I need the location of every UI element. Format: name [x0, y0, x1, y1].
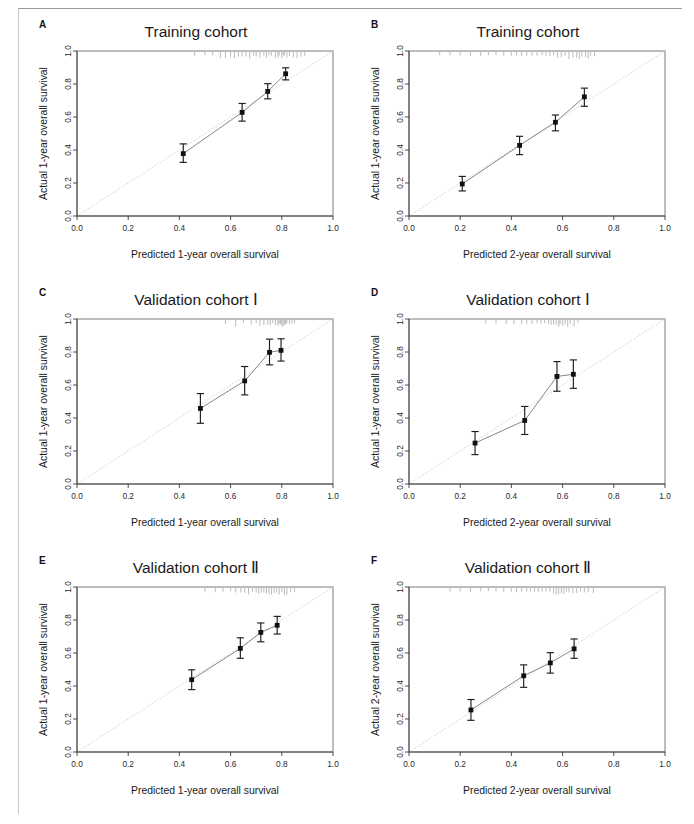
x-tick-label: 1.0	[659, 223, 671, 233]
calibration-panel-d: DValidation cohort Ⅰ0.00.00.20.20.40.40.…	[351, 281, 683, 549]
data-point-group	[241, 367, 248, 395]
data-point-marker	[582, 94, 587, 99]
data-point-group	[239, 103, 246, 121]
x-tick-label: 0.6	[225, 491, 237, 501]
data-point-group	[264, 84, 271, 99]
data-point-marker	[238, 646, 243, 651]
data-point-marker	[265, 89, 270, 94]
calibration-panel-c: CValidation cohort Ⅰ0.00.00.20.20.40.40.…	[19, 281, 351, 549]
data-point-marker	[548, 661, 553, 666]
x-tick-label: 0.2	[122, 491, 134, 501]
x-tick-label: 0.8	[276, 223, 288, 233]
y-tick-label: 0.8	[63, 614, 73, 626]
x-tick-label: 0.2	[454, 491, 466, 501]
x-tick-label: 0.4	[506, 491, 518, 501]
calibration-panel-e: EValidation cohort Ⅱ0.00.00.20.20.40.40.…	[19, 549, 351, 817]
data-point-marker	[469, 708, 474, 713]
x-tick-label: 0.0	[71, 491, 83, 501]
x-tick-label: 0.6	[557, 491, 569, 501]
x-tick-label: 0.4	[174, 223, 186, 233]
y-tick-label: 0.2	[63, 177, 73, 189]
y-tick-label: 0.2	[395, 177, 405, 189]
data-point-marker	[517, 143, 522, 148]
data-point-group	[197, 394, 204, 424]
calibration-panel-grid: ATraining cohort0.00.00.20.20.40.40.60.6…	[19, 9, 683, 815]
data-point-marker	[283, 71, 288, 76]
data-point-marker	[198, 406, 203, 411]
data-point-group	[471, 432, 478, 455]
calibration-line	[200, 350, 281, 408]
data-point-marker	[242, 378, 247, 383]
y-tick-label: 0.0	[63, 478, 73, 490]
data-point-marker	[279, 348, 284, 353]
x-axis-title: Predicted 1-year overall survival	[131, 249, 279, 260]
data-point-marker	[181, 151, 186, 156]
x-tick-label: 0.0	[71, 223, 83, 233]
data-point-marker	[522, 418, 527, 423]
diagonal-reference-line	[77, 51, 333, 216]
plot-area: 0.00.00.20.20.40.40.60.60.80.81.01.0Pred…	[351, 549, 683, 817]
data-point-marker	[460, 182, 465, 187]
data-point-marker	[267, 350, 272, 355]
data-point-marker	[240, 110, 245, 115]
data-point-marker	[521, 673, 526, 678]
y-tick-label: 1.0	[395, 45, 405, 57]
calibration-panel-f: FValidation cohort Ⅱ0.00.00.20.20.40.40.…	[351, 549, 683, 817]
data-point-group	[274, 616, 281, 634]
y-tick-label: 0.0	[395, 478, 405, 490]
plot-area: 0.00.00.20.20.40.40.60.60.80.81.01.0Pred…	[19, 549, 351, 817]
data-point-marker	[189, 677, 194, 682]
y-tick-label: 0.8	[63, 346, 73, 358]
data-point-marker	[258, 630, 263, 635]
x-tick-label: 0.4	[506, 759, 518, 769]
data-point-group	[552, 115, 559, 131]
x-tick-label: 0.8	[608, 759, 620, 769]
x-tick-label: 1.0	[327, 223, 339, 233]
x-tick-label: 0.0	[403, 223, 415, 233]
data-point-group	[467, 700, 474, 721]
x-tick-label: 0.6	[557, 759, 569, 769]
y-tick-label: 0.6	[63, 111, 73, 123]
data-point-group	[180, 144, 187, 162]
y-axis-title: Actual 1-year overall survival	[38, 335, 49, 468]
y-tick-label: 0.6	[63, 379, 73, 391]
x-axis-title: Predicted 1-year overall survival	[131, 517, 279, 528]
y-axis-title: Actual 2-year overall survival	[370, 603, 381, 736]
data-point-group	[277, 339, 284, 361]
y-axis-title: Actual 1-year overall survival	[38, 603, 49, 736]
y-tick-label: 0.4	[395, 144, 405, 156]
y-tick-label: 0.0	[63, 210, 73, 222]
calibration-line	[462, 97, 584, 184]
calibration-line	[183, 74, 285, 154]
y-tick-label: 0.2	[63, 445, 73, 457]
y-tick-label: 0.4	[63, 680, 73, 692]
plot-area: 0.00.00.20.20.40.40.60.60.80.81.01.0Pred…	[351, 13, 683, 281]
y-tick-label: 0.6	[395, 647, 405, 659]
y-tick-label: 0.6	[395, 379, 405, 391]
data-point-marker	[572, 646, 577, 651]
x-tick-label: 1.0	[659, 491, 671, 501]
y-axis-title: Actual 1-year overall survival	[370, 335, 381, 468]
x-tick-label: 1.0	[327, 759, 339, 769]
x-tick-label: 0.0	[403, 491, 415, 501]
rug-plot	[450, 588, 593, 595]
plot-area: 0.00.00.20.20.40.40.60.60.80.81.01.0Pred…	[351, 281, 683, 549]
y-tick-label: 0.8	[395, 614, 405, 626]
data-point-marker	[553, 120, 558, 125]
data-point-group	[547, 653, 554, 673]
x-tick-label: 0.0	[71, 759, 83, 769]
data-point-marker	[473, 441, 478, 446]
y-tick-label: 0.6	[63, 647, 73, 659]
rug-plot	[225, 320, 294, 327]
data-point-group	[570, 360, 577, 388]
y-tick-label: 0.8	[395, 78, 405, 90]
y-tick-label: 0.2	[395, 445, 405, 457]
diagonal-reference-line	[77, 319, 333, 484]
x-axis-title: Predicted 2-year overall survival	[463, 785, 611, 796]
y-tick-label: 1.0	[395, 313, 405, 325]
y-tick-label: 0.2	[395, 713, 405, 725]
x-tick-label: 1.0	[659, 759, 671, 769]
y-axis-title: Actual 1-year overall survival	[370, 67, 381, 200]
calibration-panel-a: ATraining cohort0.00.00.20.20.40.40.60.6…	[19, 13, 351, 281]
y-tick-label: 0.6	[395, 111, 405, 123]
